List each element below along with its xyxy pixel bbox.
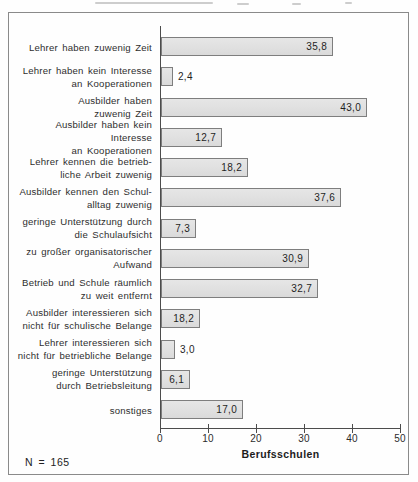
bar: 43,0 [161,98,367,117]
category-label: sonstiges [12,403,152,416]
bar: 17,0 [161,400,243,419]
x-tick-label: 50 [385,433,415,444]
bar: 37,6 [161,188,341,207]
value-label: 18,2 [173,310,194,327]
category-label: Lehrer haben kein Interessean Kooperatio… [12,64,152,90]
value-label: 30,9 [282,250,303,267]
bar-chart: 01020304050 Lehrer haben zuwenig Zeit35,… [0,0,418,482]
category-label: Lehrer haben zuwenig Zeit [12,40,152,53]
category-label: Ausbilder interessieren sichnicht für sc… [12,306,152,332]
bar [161,340,175,359]
x-tick-label: 30 [289,433,319,444]
category-label: geringe Unterstützungdurch Betriebsleitu… [12,366,152,392]
x-tick-mark [352,424,353,433]
sample-size-note: N = 165 [25,456,70,468]
bar: 18,2 [161,158,248,177]
bar: 6,1 [161,370,190,389]
bar: 18,2 [161,309,200,328]
bar: 7,3 [161,219,196,238]
value-label: 12,7 [195,129,216,146]
bar [161,67,173,86]
x-tick-mark [304,424,305,433]
category-label: Ausbilder habenzuwenig Zeit [12,94,152,120]
category-label: Ausbilder haben kein Interessean Koopera… [12,118,152,157]
x-axis-line [160,428,401,429]
x-tick-mark [208,424,209,433]
bar: 32,7 [161,279,318,298]
x-tick-label: 0 [145,433,175,444]
category-label: Lehrer kennen die betrieb-liche Arbeit z… [12,155,152,181]
value-label: 6,1 [169,371,184,388]
bar: 35,8 [161,37,333,56]
x-axis-title: Berufsschulen [160,448,401,460]
category-label: Betrieb und Schule räumlichzu weit entfe… [12,276,152,302]
value-label: 17,0 [216,401,237,418]
bar: 12,7 [161,128,222,147]
x-tick-mark [256,424,257,433]
x-tick-mark [160,424,161,433]
category-label: Lehrer interessieren sichnicht für betri… [12,336,152,362]
category-label: zu großer organisatorischerAufwand [12,245,152,271]
value-label: 3,0 [180,340,195,359]
value-label: 7,3 [175,220,190,237]
value-label: 37,6 [314,189,335,206]
x-tick-mark [400,424,401,433]
category-label: geringe Unterstützung durchdie Schulaufs… [12,215,152,241]
value-label: 18,2 [221,159,242,176]
value-label: 43,0 [340,99,361,116]
category-label: Ausbilder kennen den Schul-alltag zuweni… [12,185,152,211]
value-label: 2,4 [178,67,193,86]
value-label: 35,8 [306,38,327,55]
x-tick-label: 10 [193,433,223,444]
value-label: 32,7 [291,280,312,297]
x-tick-label: 40 [337,433,367,444]
x-tick-label: 20 [241,433,271,444]
bar: 30,9 [161,249,309,268]
